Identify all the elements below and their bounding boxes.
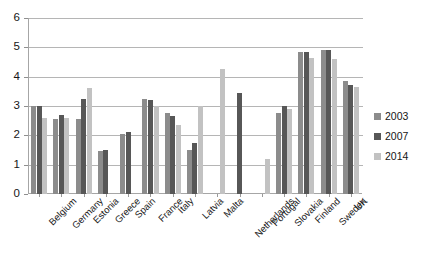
bar-group	[31, 18, 47, 194]
bar-group	[120, 18, 136, 194]
legend-label: 2003	[385, 111, 408, 122]
bar-group	[209, 18, 225, 194]
legend-entry[interactable]: 2007	[374, 128, 432, 144]
bar-group	[187, 18, 203, 194]
bar	[326, 50, 331, 194]
bar	[120, 134, 125, 194]
y-axis-tick-label: 4	[0, 71, 20, 83]
bar	[142, 99, 147, 194]
bar	[192, 143, 197, 194]
bar	[176, 125, 181, 194]
bar	[298, 52, 303, 194]
bar	[198, 106, 203, 194]
legend-entry[interactable]: 2003	[374, 108, 432, 124]
bar	[348, 85, 353, 194]
bar	[154, 106, 159, 194]
y-axis: 0123456	[0, 0, 24, 267]
bar-group	[53, 18, 69, 194]
bar	[265, 159, 270, 194]
bar	[287, 109, 292, 194]
chart-legend: 200320072014	[374, 108, 432, 168]
bar	[187, 150, 192, 194]
bar	[42, 118, 47, 194]
bar	[282, 106, 287, 194]
legend-swatch-icon	[374, 113, 381, 120]
bar-chart: 0123456 BelgiumGermanyEstoniaGreeceSpain…	[0, 0, 434, 267]
legend-swatch-icon	[374, 133, 381, 140]
y-axis-tick-label: 1	[0, 159, 20, 171]
x-axis-tick	[195, 194, 196, 197]
legend-swatch-icon	[374, 153, 381, 160]
legend-label: 2007	[385, 131, 408, 142]
y-axis-tick-label: 2	[0, 129, 20, 141]
x-axis-tick	[39, 194, 40, 197]
bar	[165, 113, 170, 194]
bar-group	[165, 18, 181, 194]
bar-group	[343, 18, 359, 194]
bar	[237, 93, 242, 194]
x-axis-tick	[128, 194, 129, 197]
bar-group	[276, 18, 292, 194]
x-axis-labels: BelgiumGermanyEstoniaGreeceSpainFranceIt…	[28, 196, 362, 267]
bar	[343, 81, 348, 194]
x-axis-tick	[240, 194, 241, 197]
bar	[309, 58, 314, 194]
y-axis-tick-label: 5	[0, 41, 20, 53]
x-axis-tick-label: Malta	[222, 196, 245, 219]
bar	[64, 118, 69, 194]
bar	[31, 106, 36, 194]
bar-group	[142, 18, 158, 194]
y-axis-tick-label: 3	[0, 100, 20, 112]
bar	[76, 119, 81, 194]
bar	[59, 115, 64, 194]
x-axis-tick	[84, 194, 85, 197]
x-axis-tick	[284, 194, 285, 197]
x-axis-tick	[150, 194, 151, 197]
bar	[148, 100, 153, 194]
bar-group	[98, 18, 114, 194]
x-axis-tick	[173, 194, 174, 197]
y-axis-tick-label: 0	[0, 188, 20, 200]
x-axis-tick	[106, 194, 107, 197]
bar	[321, 50, 326, 194]
y-axis-tick	[24, 194, 28, 195]
bar-group	[321, 18, 337, 194]
bar-group	[76, 18, 92, 194]
bar	[53, 119, 58, 194]
legend-entry[interactable]: 2014	[374, 148, 432, 164]
x-axis-tick	[217, 194, 218, 197]
bar	[81, 99, 86, 194]
bar-group	[298, 18, 314, 194]
bar-groups	[28, 18, 362, 194]
bar	[332, 59, 337, 194]
bar	[170, 116, 175, 194]
bar	[276, 113, 281, 194]
bar	[126, 132, 131, 194]
bar	[98, 151, 103, 194]
x-axis-tick	[329, 194, 330, 197]
bar	[304, 52, 309, 194]
x-axis-tick	[306, 194, 307, 197]
x-axis-tick-label: Latvia	[200, 196, 225, 221]
bar	[220, 69, 225, 194]
x-axis-tick	[351, 194, 352, 197]
bar-group	[231, 18, 247, 194]
bar	[354, 87, 359, 194]
legend-label: 2014	[385, 151, 408, 162]
bar	[87, 88, 92, 194]
bar	[37, 106, 42, 194]
y-axis-tick-label: 6	[0, 12, 20, 24]
x-axis-tick	[61, 194, 62, 197]
x-axis-tick	[262, 194, 263, 197]
bar	[103, 150, 108, 194]
bar-group	[254, 18, 270, 194]
